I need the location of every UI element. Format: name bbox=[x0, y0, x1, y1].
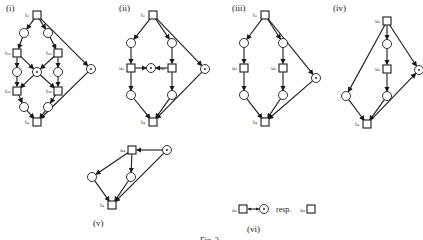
arc bbox=[134, 98, 150, 118]
legend-right-transition-label: u₂ bbox=[300, 207, 305, 213]
transition-u2b bbox=[383, 65, 391, 73]
place-circle bbox=[44, 103, 53, 112]
arc bbox=[21, 75, 34, 87]
legend-resp-text: resp. bbox=[276, 205, 291, 214]
place-circle bbox=[44, 29, 53, 38]
arrowhead-left-icon bbox=[248, 207, 251, 210]
arc bbox=[40, 18, 87, 65]
arc bbox=[157, 72, 202, 118]
panel-i: t₁t₁₁t₂₁t₁₂t₂₂t₄(i) bbox=[5, 3, 96, 126]
place-circle bbox=[20, 29, 29, 38]
arc bbox=[131, 154, 132, 172]
arc bbox=[348, 25, 384, 92]
transition-u1 bbox=[127, 64, 135, 72]
place-circle bbox=[383, 40, 392, 49]
place-circle bbox=[54, 68, 63, 77]
transition-label: t₄ bbox=[355, 121, 359, 127]
place-circle bbox=[240, 91, 249, 100]
arc bbox=[51, 95, 56, 103]
arc bbox=[134, 19, 150, 40]
transition-u4 bbox=[128, 146, 136, 154]
place-circle bbox=[279, 91, 288, 100]
arc bbox=[156, 19, 170, 39]
place-circle bbox=[383, 92, 392, 101]
transition-label: u₂ bbox=[160, 65, 165, 71]
legend-left-transition-label: u₁ bbox=[232, 207, 237, 213]
transition-t4 bbox=[149, 118, 157, 126]
legend-vi: u₁ resp. u₂ (vi) bbox=[232, 205, 315, 235]
transition-label: t₁ bbox=[25, 12, 29, 18]
arc bbox=[156, 99, 170, 118]
panel-label-ii: (ii) bbox=[119, 3, 130, 13]
panel-label-iv: (iv) bbox=[333, 3, 346, 13]
transition-label: t₁ bbox=[253, 12, 257, 18]
legend-transition-square bbox=[239, 205, 247, 213]
transition-label: u₂ bbox=[375, 18, 380, 24]
token-dot-icon bbox=[150, 67, 152, 69]
place-circle bbox=[88, 173, 97, 182]
transition-label: u₂ bbox=[271, 65, 276, 71]
arc bbox=[389, 25, 416, 66]
transition-label: t₂₁ bbox=[46, 50, 52, 56]
arc bbox=[41, 56, 55, 69]
token-dot-icon bbox=[36, 71, 38, 73]
transition-label: t₄ bbox=[253, 119, 257, 125]
transition-label: u₁ bbox=[119, 65, 124, 71]
transition-label: t₄ bbox=[100, 202, 104, 208]
transition-t12 bbox=[13, 87, 21, 95]
token-dot-icon bbox=[315, 77, 317, 79]
panel-ii: t₁u₁u₂t₄(ii) bbox=[119, 3, 210, 126]
panel-label-i: (i) bbox=[6, 3, 15, 13]
legend-transition-square-right bbox=[307, 205, 315, 213]
transition-t4 bbox=[261, 118, 269, 126]
place-circle bbox=[127, 91, 136, 100]
arc bbox=[268, 99, 281, 118]
arc bbox=[95, 181, 109, 201]
panel-iv: u₂u₂t₄(iv) bbox=[333, 3, 423, 128]
arc bbox=[19, 95, 22, 102]
transition-t4 bbox=[108, 201, 116, 209]
arc bbox=[349, 100, 364, 120]
transition-label: t₄ bbox=[141, 119, 145, 125]
panel-label-v: (v) bbox=[93, 218, 104, 228]
transition-label: t₄ bbox=[25, 119, 29, 125]
arc bbox=[247, 19, 262, 39]
token-dot-icon bbox=[204, 68, 206, 70]
arc bbox=[269, 81, 313, 119]
transition-u2 bbox=[168, 64, 176, 72]
token-dot-icon bbox=[166, 149, 168, 151]
token-dot-icon bbox=[418, 69, 420, 71]
diagram-panels: t₁t₁₁t₂₁t₁₂t₂₂t₄(i)t₁u₁u₂t₄(ii)t₁u₁u₂t₄(… bbox=[5, 3, 423, 228]
arrowhead-right-icon bbox=[256, 207, 259, 210]
transition-label: u₄ bbox=[120, 147, 125, 153]
arc bbox=[20, 56, 33, 68]
arc bbox=[116, 153, 164, 201]
transition-u2 bbox=[383, 17, 391, 25]
arc bbox=[40, 75, 54, 88]
panel-label-iii: (iii) bbox=[232, 3, 246, 13]
transition-t4 bbox=[363, 120, 371, 128]
panel-label-vi: (vi) bbox=[247, 224, 260, 234]
figure-caption: Fig. 3 bbox=[200, 236, 219, 240]
place-circle bbox=[168, 91, 177, 100]
transition-t22 bbox=[54, 87, 62, 95]
transition-t4 bbox=[33, 118, 41, 126]
petri-net-figure: t₁t₁₁t₂₁t₁₂t₂₂t₄(i)t₁u₁u₂t₄(ii)t₁u₁u₂t₄(… bbox=[0, 0, 423, 240]
token-dot-icon bbox=[90, 68, 92, 70]
transition-label: t₁ bbox=[141, 12, 145, 18]
arc bbox=[156, 18, 201, 65]
transition-label: t₂₂ bbox=[46, 88, 52, 94]
transition-label: u₂ bbox=[375, 66, 380, 72]
arc bbox=[27, 19, 34, 29]
arc bbox=[96, 153, 128, 175]
arc bbox=[247, 99, 262, 119]
transition-t11 bbox=[13, 49, 21, 57]
place-circle bbox=[342, 92, 351, 101]
arc bbox=[370, 100, 384, 120]
place-circle bbox=[240, 39, 249, 48]
transition-t1 bbox=[149, 11, 157, 19]
transition-label: t₁₂ bbox=[5, 88, 11, 94]
panel-v: u₄t₄(v) bbox=[88, 146, 172, 229]
transition-label: u₁ bbox=[232, 65, 237, 71]
place-circle bbox=[279, 39, 288, 48]
